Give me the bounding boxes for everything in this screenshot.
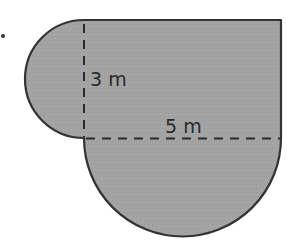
bullet-dot bbox=[1, 34, 5, 38]
width-label: 5 m bbox=[165, 115, 202, 137]
composite-shape-figure: 3 m 5 m bbox=[0, 0, 305, 251]
composite-shape-outline bbox=[25, 20, 281, 237]
height-label: 3 m bbox=[90, 68, 127, 90]
